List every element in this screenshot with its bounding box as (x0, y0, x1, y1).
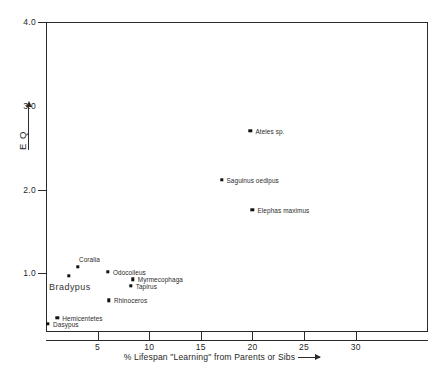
data-point-label: Rhinoceros (114, 297, 147, 304)
y-axis-title: E Q (17, 131, 28, 150)
y-axis-tick-label: 2.0 (23, 185, 36, 195)
data-point-label: Saguinus oedipus (227, 176, 279, 183)
x-axis-tick-mark (356, 332, 357, 341)
x-axis-tick-mark (304, 332, 305, 341)
data-point-label: Ateles sp. (255, 127, 284, 134)
data-point (220, 178, 223, 181)
y-axis-tick-label: 1.0 (23, 268, 36, 278)
data-point-label: Odocoileus (113, 268, 146, 275)
x-axis-arrow-icon (298, 357, 320, 358)
data-point-label: Bradypus (49, 282, 91, 292)
x-axis-tick-label: 25 (299, 342, 309, 352)
x-axis-tick-mark (201, 332, 202, 341)
data-point-label: Coralia (79, 255, 100, 262)
data-point (46, 322, 49, 325)
x-axis-tick-label: 30 (351, 342, 361, 352)
x-axis-tick-mark (149, 332, 150, 341)
x-axis-line (46, 340, 428, 341)
x-axis-tick-label: 5 (95, 342, 100, 352)
data-point (107, 298, 110, 301)
y-axis-tick-mark (38, 273, 46, 274)
x-axis-tick-mark (252, 332, 253, 341)
data-point (76, 265, 79, 268)
x-axis-title-text: % Lifespan "Learning" from Parents or Si… (124, 352, 295, 362)
y-axis-tick-mark (38, 22, 46, 23)
data-point (67, 274, 70, 277)
scatter-plot-figure: E Q 1.02.03.04.0 51015202530 % Lifespan … (0, 0, 444, 375)
y-axis-tick-mark (38, 190, 46, 191)
x-axis-tick-mark (98, 332, 99, 341)
data-point-label: Elephas maximus (257, 206, 309, 213)
x-axis-title: % Lifespan "Learning" from Parents or Si… (0, 352, 444, 362)
data-point-label: Dasypus (53, 320, 79, 327)
data-point (249, 129, 252, 132)
x-axis-tick-label: 20 (247, 342, 257, 352)
data-point (106, 270, 109, 273)
data-point (251, 208, 254, 211)
data-point (56, 316, 59, 319)
y-axis-tick-label: 4.0 (23, 17, 36, 27)
y-axis-arrow-icon (28, 106, 29, 150)
data-point (131, 278, 134, 281)
y-axis-tick-label: 3.0 (23, 101, 36, 111)
x-axis-tick-label: 10 (144, 342, 154, 352)
x-axis-tick-label: 15 (196, 342, 206, 352)
data-point (129, 284, 132, 287)
data-point-label: Tapirus (136, 282, 157, 289)
